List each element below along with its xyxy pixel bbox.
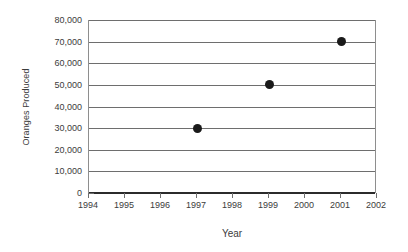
x-axis-title: Year [88, 228, 376, 239]
y-axis-tick [89, 42, 94, 43]
y-axis-tick-label: 0 [22, 188, 82, 198]
x-axis-tick [88, 193, 89, 198]
x-axis-tick-label: 2002 [354, 200, 398, 210]
gridline [89, 107, 375, 108]
gridline [89, 85, 375, 86]
x-axis-tick [160, 193, 161, 198]
data-point [337, 37, 346, 46]
y-axis-tick-label: 20,000 [22, 145, 82, 155]
data-point [265, 80, 274, 89]
y-axis-tick-label: 50,000 [22, 80, 82, 90]
y-axis-tick-label: 60,000 [22, 58, 82, 68]
scatter-chart: Oranges Produced 010,00020,00030,00040,0… [0, 0, 408, 252]
y-axis-tick-label: 40,000 [22, 102, 82, 112]
gridline [89, 42, 375, 43]
gridline [89, 150, 375, 151]
gridline [89, 171, 375, 172]
y-axis-tick-label: 30,000 [22, 123, 82, 133]
gridline [89, 20, 375, 21]
x-axis-tick [304, 193, 305, 198]
y-axis-tick [89, 150, 94, 151]
y-axis-tick [89, 171, 94, 172]
x-axis-tick [196, 193, 197, 198]
y-axis-tick [89, 128, 94, 129]
y-axis-tick-label: 80,000 [22, 15, 82, 25]
x-axis-tick [376, 193, 377, 198]
y-axis-tick [89, 85, 94, 86]
plot-area [88, 20, 376, 193]
x-axis-tick [340, 193, 341, 198]
y-axis-tick [89, 63, 94, 64]
x-axis-tick [124, 193, 125, 198]
x-axis-tick [268, 193, 269, 198]
y-axis-tick [89, 20, 94, 21]
y-axis-tick-label: 10,000 [22, 166, 82, 176]
x-axis-tick [232, 193, 233, 198]
y-axis-tick [89, 107, 94, 108]
x-axis: 199419951996199719981999200020012002 [88, 193, 376, 217]
gridline [89, 128, 375, 129]
y-axis-tick-label: 70,000 [22, 37, 82, 47]
gridline [89, 63, 375, 64]
data-point [193, 124, 202, 133]
